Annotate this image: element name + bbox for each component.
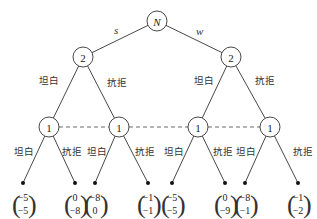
leaf-dot — [21, 181, 25, 185]
payoff-player2: −1 — [240, 205, 251, 216]
leaf-payoff-7: ()−8−1 — [234, 181, 259, 219]
edge-root-to-p2-1 — [92, 25, 148, 52]
payoff-player2: −9 — [220, 205, 231, 216]
edge-p2-to-p1-2 — [88, 66, 115, 118]
leaf-dot — [170, 181, 174, 185]
leaf-payoff-1: ()−5−5 — [12, 181, 37, 219]
branch-label: 抗拒 — [293, 146, 313, 157]
node-label: 1 — [267, 122, 273, 134]
payoff-player1: −1 — [143, 192, 154, 203]
nature-node: N — [147, 11, 167, 31]
branch-label: 抗拒 — [213, 146, 233, 157]
nature-move-label-w: w — [196, 25, 204, 37]
branch-label: 坦白 — [14, 146, 34, 157]
payoff-player2: −1 — [143, 205, 154, 216]
edge-p1-to-leaf-3 — [95, 136, 115, 183]
edge-p1-to-leaf-6 — [202, 136, 225, 183]
payoff-player1: −1 — [293, 192, 304, 203]
leaf-payoff-4: ()−1−1 — [137, 181, 162, 219]
node-label: 1 — [46, 122, 52, 134]
leaf-payoff-3: ()−80 — [84, 181, 109, 219]
branch-label: 抗拒 — [255, 75, 275, 86]
branch-label: 坦白 — [39, 75, 59, 86]
payoff-player2: −5 — [167, 205, 178, 216]
branch-label: 坦白 — [87, 146, 107, 157]
edge-p1-to-leaf-2 — [53, 136, 75, 183]
payoff-player2: −8 — [70, 205, 81, 216]
payoff-player1: 0 — [223, 192, 228, 203]
branch-label: 坦白 — [164, 146, 184, 157]
game-tree: N221111 sw坦白抗拒坦白抗拒坦白抗拒坦白抗拒坦白抗拒坦白抗拒 ()−5−… — [0, 0, 317, 219]
player1-node-4: 1 — [260, 117, 280, 137]
edge-p1-to-leaf-7 — [245, 136, 266, 183]
right-paren: ) — [28, 190, 37, 219]
leaf-dot — [146, 181, 150, 185]
edge-p1-to-leaf-1 — [23, 136, 45, 183]
player1-node-2: 1 — [109, 117, 129, 137]
payoff-player1: −5 — [18, 192, 29, 203]
payoff-player2: −2 — [293, 205, 304, 216]
edge-p1-to-leaf-5 — [172, 136, 194, 183]
payoff-player1: −5 — [167, 192, 178, 203]
payoff-player2: 0 — [93, 205, 98, 216]
player2-node-2: 2 — [221, 47, 241, 67]
node-label: 1 — [116, 122, 122, 134]
right-paren: ) — [100, 190, 109, 219]
branch-label: 坦白 — [236, 146, 256, 157]
branch-label: 抗拒 — [62, 146, 82, 157]
branch-label: 抗拒 — [107, 77, 127, 88]
edge-p2-to-p1-3 — [202, 66, 226, 118]
payoff-player1: 0 — [73, 192, 78, 203]
leaf-dot — [93, 181, 97, 185]
node-label: N — [152, 16, 161, 28]
nature-move-label-s: s — [114, 24, 118, 36]
node-label: 1 — [195, 122, 201, 134]
right-paren: ) — [177, 190, 186, 219]
leaf-dot — [296, 181, 300, 185]
edge-p2-to-p1-1 — [53, 66, 78, 118]
node-label: 2 — [80, 52, 86, 64]
edge-root-to-p2-2 — [166, 25, 222, 52]
player1-node-3: 1 — [188, 117, 208, 137]
payoff-leaves: ()−5−5()0−8()−80()−1−1()−5−5()0−9()−8−1(… — [12, 181, 312, 219]
player2-node-1: 2 — [73, 47, 93, 67]
tree-edges — [23, 25, 298, 183]
edge-p1-to-leaf-4 — [124, 136, 148, 183]
leaf-dot — [73, 181, 77, 185]
right-paren: ) — [303, 190, 312, 219]
leaf-payoff-5: ()−5−5 — [161, 181, 186, 219]
branch-label: 抗拒 — [135, 146, 155, 157]
edge-p2-to-p1-4 — [236, 66, 265, 119]
payoff-player1: −8 — [90, 192, 101, 203]
leaf-dot — [223, 181, 227, 185]
leaf-payoff-8: ()−1−2 — [287, 181, 312, 219]
edge-p1-to-leaf-8 — [274, 136, 298, 183]
payoff-player2: −5 — [18, 205, 29, 216]
right-paren: ) — [250, 190, 259, 219]
payoff-player1: −8 — [240, 192, 251, 203]
node-label: 2 — [228, 52, 234, 64]
branch-label: 坦白 — [194, 75, 214, 86]
leaf-dot — [243, 181, 247, 185]
player1-node-1: 1 — [39, 117, 59, 137]
